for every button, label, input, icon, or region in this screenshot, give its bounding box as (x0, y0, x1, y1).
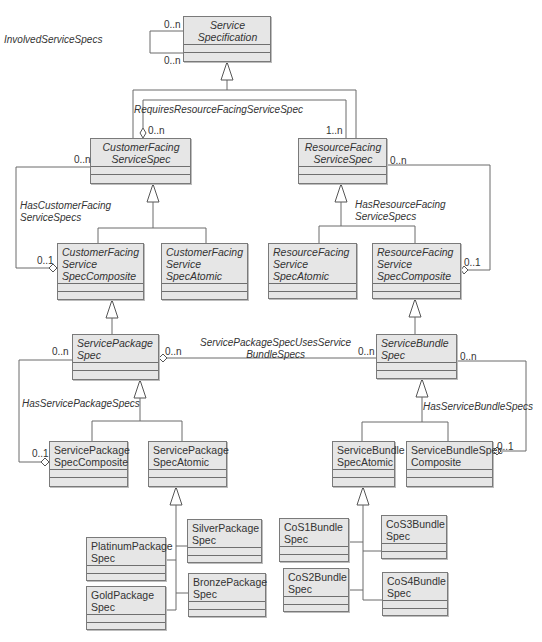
class-name: SilverPackage Spec (188, 520, 261, 548)
class-cfs-spec-atomic[interactable]: CustomerFacing Service SpecAtomic (161, 243, 248, 300)
attributes-compartment (73, 363, 158, 371)
multiplicity-label: 0..n (148, 125, 165, 137)
class-name: CustomerFacing ServiceSpec (91, 139, 190, 167)
operations-compartment (407, 478, 492, 486)
multiplicity-label: 0..1 (464, 257, 481, 269)
class-bronze-package-spec[interactable]: BronzePackage Spec (188, 573, 266, 617)
multiplicity-label: 0..1 (32, 448, 49, 460)
multiplicity-label: 0..1 (497, 441, 514, 453)
class-rfs-spec-composite[interactable]: ResourceFacing Service SpecComposite (372, 243, 461, 299)
class-name: CoS1Bundle Spec (280, 519, 348, 547)
multiplicity-label: 0..1 (37, 255, 54, 267)
class-platinum-package-spec[interactable]: PlatinumPackage Spec (86, 537, 166, 581)
attributes-compartment (382, 544, 446, 552)
multiplicity-label: 0..n (74, 154, 91, 166)
association-label-has-customer-facing-service-specs: HasCustomerFacing ServiceSpecs (20, 200, 111, 224)
association-label-requires-resource-facing-service-spec: RequiresResourceFacingServiceSpec (134, 104, 303, 116)
class-cos3-bundle-spec[interactable]: CoS3Bundle Spec (381, 515, 447, 559)
multiplicity-label: 0..n (164, 55, 181, 67)
attributes-compartment (280, 547, 348, 555)
operations-compartment (383, 609, 447, 615)
class-name: Service Specification (184, 17, 270, 45)
attributes-compartment (87, 615, 165, 623)
class-name: ServiceBundle SpecAtomic (333, 442, 394, 470)
class-name: CustomerFacing Service SpecComposite (58, 244, 143, 284)
association-label-has-service-package-specs: HasServicePackageSpecs (22, 398, 140, 410)
operations-compartment (299, 175, 386, 183)
operations-compartment (50, 478, 127, 486)
class-name: CoS3Bundle Spec (382, 516, 446, 544)
operations-compartment (284, 605, 348, 611)
operations-compartment (162, 292, 247, 299)
uml-class-diagram: Service SpecificationCustomerFacing Serv… (0, 0, 542, 642)
association-label-service-package-spec-uses-service-bundle-specs: ServicePackageSpecUsesService BundleSpec… (200, 337, 351, 361)
multiplicity-label: 0..n (460, 351, 477, 363)
multiplicity-label: 0..n (164, 19, 181, 31)
attributes-compartment (299, 167, 386, 175)
class-name: ServiceBundleSpec Composite (407, 442, 492, 470)
multiplicity-label: 0..n (358, 346, 375, 358)
operations-compartment (58, 292, 143, 299)
attributes-compartment (377, 363, 456, 371)
attributes-compartment (188, 548, 261, 556)
attributes-compartment (149, 470, 226, 478)
class-service-package-spec-composite[interactable]: ServicePackage SpecComposite (49, 441, 128, 487)
operations-compartment (373, 292, 460, 298)
generalization-arrow (221, 62, 233, 80)
attributes-compartment (58, 284, 143, 292)
operations-compartment (184, 53, 270, 61)
operations-compartment (189, 610, 265, 616)
attributes-compartment (333, 470, 394, 478)
class-customer-facing-service-spec[interactable]: CustomerFacing ServiceSpec (90, 138, 191, 184)
class-name: ServicePackage SpecComposite (50, 442, 127, 470)
class-name: ServicePackage Spec (73, 335, 158, 363)
attributes-compartment (162, 284, 247, 292)
class-name: BronzePackage Spec (189, 574, 265, 602)
class-cos1-bundle-spec[interactable]: CoS1Bundle Spec (279, 518, 349, 562)
attributes-compartment (407, 470, 492, 478)
class-cos4-bundle-spec[interactable]: CoS4Bundle Spec (382, 572, 448, 616)
class-gold-package-spec[interactable]: GoldPackage Spec (86, 586, 166, 630)
class-service-bundle-spec[interactable]: ServiceBundle Spec (376, 334, 457, 379)
class-name: ServicePackage SpecAtomic (149, 442, 226, 470)
association-label-involved-service-specs: InvolvedServiceSpecs (4, 34, 102, 46)
involved-service-specs-loop (150, 31, 183, 53)
attributes-compartment (189, 602, 265, 610)
class-name: CoS2Bundle Spec (284, 569, 348, 597)
operations-compartment (91, 175, 190, 183)
class-silver-package-spec[interactable]: SilverPackage Spec (187, 519, 262, 563)
multiplicity-label: 0..n (52, 346, 69, 358)
class-resource-facing-service-spec[interactable]: ResourceFacing ServiceSpec (298, 138, 387, 184)
attributes-compartment (87, 566, 165, 574)
class-rfs-spec-atomic[interactable]: ResourceFacing Service SpecAtomic (268, 243, 357, 299)
multiplicity-label: 1..n (326, 125, 343, 137)
attributes-compartment (284, 597, 348, 605)
aggregation-diamond (140, 128, 146, 138)
class-service-package-spec-atomic[interactable]: ServicePackage SpecAtomic (148, 441, 227, 487)
operations-compartment (377, 371, 456, 378)
class-name: ResourceFacing Service SpecComposite (373, 244, 460, 284)
class-service-bundle-spec-composite[interactable]: ServiceBundleSpec Composite (406, 441, 493, 487)
multiplicity-label: 0..n (165, 346, 182, 358)
class-name: CustomerFacing Service SpecAtomic (162, 244, 247, 284)
class-service-package-spec[interactable]: ServicePackage Spec (72, 334, 159, 380)
class-cfs-spec-composite[interactable]: CustomerFacing Service SpecComposite (57, 243, 144, 300)
class-name: GoldPackage Spec (87, 587, 165, 615)
class-service-bundle-spec-atomic[interactable]: ServiceBundle SpecAtomic (332, 441, 395, 487)
class-name: ResourceFacing ServiceSpec (299, 139, 386, 167)
class-service-specification[interactable]: Service Specification (183, 16, 271, 62)
attributes-compartment (269, 284, 356, 292)
operations-compartment (188, 556, 261, 562)
operations-compartment (73, 371, 158, 379)
attributes-compartment (50, 470, 127, 478)
connector-lines (0, 0, 542, 642)
attributes-compartment (184, 45, 270, 53)
operations-compartment (280, 555, 348, 561)
attributes-compartment (373, 284, 460, 292)
operations-compartment (149, 478, 226, 486)
class-name: PlatinumPackage Spec (87, 538, 165, 566)
operations-compartment (269, 292, 356, 298)
attributes-compartment (383, 601, 447, 609)
operations-compartment (333, 478, 394, 486)
class-cos2-bundle-spec[interactable]: CoS2Bundle Spec (283, 568, 349, 612)
